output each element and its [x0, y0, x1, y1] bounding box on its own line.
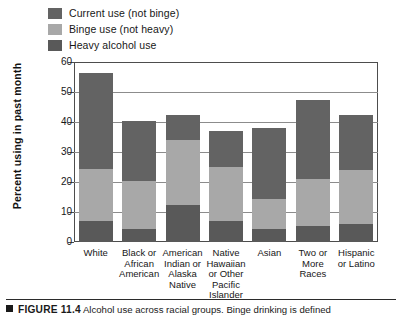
y-tick-label-30: 30: [42, 147, 72, 157]
bar-segment: [252, 199, 286, 229]
chart-axes: 0102030405060: [74, 62, 378, 242]
x-axis-label-line: Asian: [248, 248, 291, 259]
x-axis-label-line: Alaska: [161, 269, 204, 280]
figure-container: Current use (not binge) Binge use (not h…: [0, 0, 400, 317]
caption-bullet-icon: [6, 305, 13, 312]
stacked-bar: [209, 131, 243, 242]
caption-figure-number: FIGURE 11.4: [18, 304, 81, 315]
stacked-bar: [339, 115, 373, 243]
y-axis-label: Percent using in past month: [11, 61, 23, 211]
x-axis-label-line: Native: [204, 248, 247, 259]
bar-segment: [339, 170, 373, 224]
stacked-bar: [166, 115, 200, 243]
legend-swatch-current-use: [48, 8, 62, 19]
bar-group: [248, 62, 291, 242]
x-axis-label-line: American: [117, 269, 160, 280]
bar-segment: [339, 115, 373, 171]
bar-group: [74, 62, 117, 242]
bar-group: [335, 62, 378, 242]
caption-text: Alcohol use across racial groups. Binge …: [81, 304, 331, 315]
bar-segment: [166, 140, 200, 205]
bar-segment: [339, 224, 373, 242]
bar-group: [117, 62, 160, 242]
x-axis-label: White: [74, 248, 117, 259]
bar-segment: [166, 205, 200, 243]
y-tick-label-0: 0: [42, 237, 72, 247]
stacked-bar: [122, 121, 156, 243]
x-axis-label-line: Black or: [117, 248, 160, 259]
bar-group: [161, 62, 204, 242]
bar-segment: [166, 115, 200, 141]
legend-item-binge-use: Binge use (not heavy): [48, 22, 179, 37]
chart-legend: Current use (not binge) Binge use (not h…: [48, 6, 179, 54]
bar-segment: [122, 229, 156, 243]
legend-item-heavy-use: Heavy alcohol use: [48, 38, 179, 53]
x-axis-label: Black orAfricanAmerican: [117, 248, 160, 280]
plot-area: Percent using in past month 010203040506…: [0, 58, 400, 253]
y-tick-label-10: 10: [42, 207, 72, 217]
figure-caption: FIGURE 11.4 Alcohol use across racial gr…: [6, 299, 396, 315]
bar-segment: [122, 121, 156, 181]
x-axis-label-line: Two or: [291, 248, 334, 259]
bar-group: [291, 62, 334, 242]
bar-segment: [79, 73, 113, 169]
x-axis-label: Asian: [248, 248, 291, 259]
bar-segment: [209, 167, 243, 221]
x-axis-label-line: or Other: [204, 269, 247, 280]
bar-segment: [296, 226, 330, 243]
bar-segment: [79, 221, 113, 242]
x-axis-label-line: White: [74, 248, 117, 259]
x-axis-label-line: or Latino: [335, 259, 378, 270]
legend-label-heavy-use: Heavy alcohol use: [69, 40, 157, 51]
x-axis-label-line: American: [161, 248, 204, 259]
legend-label-binge-use: Binge use (not heavy): [69, 24, 173, 35]
y-tick-label-40: 40: [42, 117, 72, 127]
y-tick-label-20: 20: [42, 177, 72, 187]
bar-segment: [296, 100, 330, 180]
y-tick-label-60: 60: [42, 57, 72, 67]
stacked-bar: [79, 73, 113, 243]
x-axis-label-line: Native: [161, 280, 204, 291]
bar-segment: [252, 229, 286, 243]
stacked-bar: [252, 128, 286, 242]
x-axis-label: Two orMoreRaces: [291, 248, 334, 280]
x-axis-label: NativeHawaiianor OtherPacificIslander: [204, 248, 247, 301]
bar-segment: [252, 128, 286, 199]
legend-item-current-use: Current use (not binge): [48, 6, 179, 21]
bar-group: [204, 62, 247, 242]
y-tick-label-50: 50: [42, 87, 72, 97]
x-axis-label-line: Hispanic: [335, 248, 378, 259]
x-axis-label-line: Races: [291, 269, 334, 280]
bar-segment: [296, 179, 330, 226]
legend-swatch-heavy-use: [48, 40, 62, 51]
legend-swatch-binge-use: [48, 24, 62, 35]
x-axis-label: AmericanIndian orAlaskaNative: [161, 248, 204, 290]
bar-segment: [209, 221, 243, 242]
stacked-bar: [296, 100, 330, 243]
bar-segment: [79, 169, 113, 222]
x-axis-label: Hispanicor Latino: [335, 248, 378, 269]
bar-segment: [209, 131, 243, 167]
legend-label-current-use: Current use (not binge): [69, 8, 179, 19]
bar-series-group: [74, 62, 378, 242]
bar-segment: [122, 181, 156, 229]
